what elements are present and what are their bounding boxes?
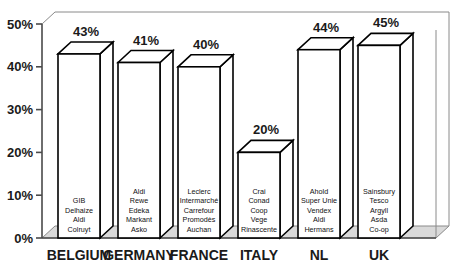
bar-annotation-text: Colruyt <box>68 225 91 234</box>
y-axis-tick-label: 40% <box>7 59 33 74</box>
x-axis-category-label: UK <box>369 247 389 263</box>
x-axis-category-label: NL <box>310 247 329 263</box>
bar-value-label: 20% <box>253 122 279 137</box>
bar-annotation-text: Asko <box>131 225 147 234</box>
bar-value-label: 44% <box>313 20 339 35</box>
bar-group: 44%AholdSuper UnieVendexAldiHermans <box>298 20 353 238</box>
bar-side-face <box>280 140 293 238</box>
bar-side-face <box>100 42 113 238</box>
bar-annotation-text: Carrefour <box>184 206 215 215</box>
bar-side-face <box>400 33 413 238</box>
bar-group: 20%CraiConadCoopVegeRinascente <box>238 122 293 238</box>
bar-annotation-text: Aldi <box>73 215 85 224</box>
y-axis-tick-label: 10% <box>7 188 33 203</box>
bar-annotation-text: Aldi <box>313 215 325 224</box>
chart-canvas: 0%10%20%30%40%50%43%GIBDelhaizeAldiColru… <box>0 0 458 274</box>
bar-value-label: 41% <box>133 33 159 48</box>
bar-group: 43%GIBDelhaizeAldiColruyt <box>58 24 113 238</box>
bar-value-label: 40% <box>193 37 219 52</box>
bar-annotation-text: Intermarché <box>180 196 218 205</box>
bar-annotation-text: Ahold <box>310 187 328 196</box>
bar-group: 41%AldiReweEdekaMarkantAsko <box>118 33 173 238</box>
x-axis-category-label: FRANCE <box>170 247 228 263</box>
bar-annotation-text: Hermans <box>304 225 334 234</box>
bar-side-face <box>160 51 173 238</box>
bar-group: 40%LeclercIntermarchéCarrefourPromodèsAu… <box>178 37 233 238</box>
bar-annotation-text: Promodès <box>183 215 216 224</box>
bar-side-face <box>340 38 353 238</box>
x-axis-category-label: GERMANY <box>103 247 175 263</box>
y-axis-tick-label: 30% <box>7 102 33 117</box>
bar-annotation-text: Super Unie <box>301 196 337 205</box>
bar-annotation-text: Argyll <box>370 206 388 215</box>
bar-value-label: 43% <box>73 24 99 39</box>
bar-annotation-text: Vege <box>251 215 267 224</box>
bar-annotation-text: Coop <box>250 206 267 215</box>
y-axis-tick-label: 50% <box>7 17 33 32</box>
bar-annotation-text: Tesco <box>370 196 389 205</box>
bar-annotation-text: Vendex <box>307 206 331 215</box>
y-axis-tick-label: 20% <box>7 145 33 160</box>
bar-annotation-text: Rewe <box>130 196 148 205</box>
x-axis-category-label: BELGIUM <box>47 247 112 263</box>
bar-annotation-text: Co-op <box>369 225 389 234</box>
bar-annotation-text: Edeka <box>129 206 149 215</box>
bar-annotation-text: Crai <box>252 187 266 196</box>
bar-annotation-text: Sainsbury <box>363 187 395 196</box>
bar-side-face <box>220 55 233 238</box>
bar-annotation-text: Markant <box>126 215 152 224</box>
bar-chart: 0%10%20%30%40%50%43%GIBDelhaizeAldiColru… <box>0 0 458 274</box>
bar-value-label: 45% <box>373 15 399 30</box>
bar-annotation-text: GIB <box>73 196 86 205</box>
bar-group: 45%SainsburyTescoArgyllAsdaCo-op <box>358 15 413 238</box>
bar-annotation-text: Leclerc <box>187 187 211 196</box>
bar-annotation-text: Rinascente <box>241 225 277 234</box>
bar-annotation-text: Delhaize <box>65 206 93 215</box>
x-axis-category-label: ITALY <box>240 247 279 263</box>
bar-annotation-text: Asda <box>371 215 387 224</box>
bar-annotation-text: Aldi <box>133 187 145 196</box>
bar-annotation-text: Auchan <box>187 225 211 234</box>
bar-annotation-text: Conad <box>248 196 269 205</box>
y-axis-tick-label: 0% <box>14 231 33 246</box>
